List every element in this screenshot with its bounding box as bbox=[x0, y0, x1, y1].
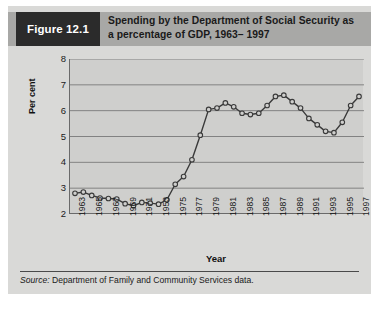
y-axis-tick-labels: 8765432 bbox=[50, 59, 66, 214]
x-axis-tick-label: 1953 bbox=[161, 197, 171, 216]
data-point bbox=[282, 93, 287, 98]
data-point bbox=[332, 130, 337, 135]
data-point bbox=[348, 103, 353, 108]
source-divider bbox=[20, 271, 359, 272]
line-chart-svg bbox=[70, 59, 364, 214]
x-axis-tick-label: 1969 bbox=[128, 197, 138, 216]
y-axis-tick-label: 6 bbox=[52, 105, 66, 116]
source-label: Source: bbox=[20, 275, 50, 285]
data-point bbox=[181, 174, 186, 179]
y-axis-tick-label: 4 bbox=[52, 156, 66, 167]
data-point bbox=[273, 94, 278, 99]
data-point bbox=[357, 94, 362, 99]
x-axis-tick-label: 1979 bbox=[211, 197, 221, 216]
y-axis-tick-label: 8 bbox=[52, 53, 66, 64]
data-point bbox=[206, 107, 211, 112]
y-axis-tick-label: 2 bbox=[52, 208, 66, 219]
y-axis-tick-label: 3 bbox=[52, 182, 66, 193]
x-axis-tick-label: 1981 bbox=[228, 197, 238, 216]
x-axis-tick-label: 1989 bbox=[295, 197, 305, 216]
x-axis-tick-label: 1971 bbox=[144, 197, 154, 216]
data-point bbox=[298, 106, 303, 111]
x-axis-title: Year bbox=[69, 253, 363, 264]
plot-area bbox=[69, 59, 363, 214]
gridlines bbox=[70, 59, 364, 188]
data-point bbox=[265, 103, 270, 108]
data-point bbox=[290, 99, 295, 104]
x-axis-tick-label: 1991 bbox=[311, 197, 321, 216]
data-point bbox=[323, 129, 328, 134]
data-point-markers bbox=[73, 93, 362, 208]
x-axis-tick-label: 1963 bbox=[77, 197, 87, 216]
data-point bbox=[123, 201, 128, 206]
data-point bbox=[248, 112, 253, 117]
x-axis-tick-label: 1977 bbox=[194, 197, 204, 216]
source-note: Source: Department of Family and Communi… bbox=[20, 275, 254, 285]
x-axis-tick-label: 1995 bbox=[345, 197, 355, 216]
y-axis-tick-label: 7 bbox=[52, 79, 66, 90]
data-point bbox=[315, 123, 320, 128]
figure-box: Figure 12.1 Spending by the Department o… bbox=[8, 6, 371, 294]
figure-number-tag: Figure 12.1 bbox=[16, 12, 100, 46]
data-point bbox=[231, 104, 236, 109]
x-axis-tick-label: 1983 bbox=[245, 197, 255, 216]
data-point bbox=[173, 182, 178, 187]
data-point bbox=[73, 191, 78, 196]
data-point bbox=[190, 157, 195, 162]
source-text: Department of Family and Community Servi… bbox=[52, 275, 254, 285]
x-axis-tick-label: 1997 bbox=[361, 197, 371, 216]
x-axis-tick-label: 1975 bbox=[178, 197, 188, 216]
data-point bbox=[198, 133, 203, 138]
data-point bbox=[223, 101, 228, 106]
data-line bbox=[75, 95, 359, 206]
figure-title: Spending by the Department of Social Sec… bbox=[108, 14, 358, 41]
data-point bbox=[240, 111, 245, 116]
figure-title-band: Figure 12.1 Spending by the Department o… bbox=[8, 12, 371, 46]
y-axis-tick-label: 5 bbox=[52, 131, 66, 142]
data-point bbox=[340, 120, 345, 125]
data-point bbox=[81, 190, 86, 195]
figure-title-line-2: a percentage of GDP, 1963– 1997 bbox=[108, 28, 358, 42]
x-axis-tick-labels: 1963196519671969197119531975197719791981… bbox=[69, 216, 363, 250]
data-point bbox=[256, 111, 261, 116]
y-axis-title: Per cent bbox=[27, 78, 37, 114]
x-axis-tick-label: 1965 bbox=[94, 197, 104, 216]
data-point bbox=[307, 116, 312, 121]
x-axis-tick-label: 1967 bbox=[111, 197, 121, 216]
figure-title-line-1: Spending by the Department of Social Sec… bbox=[108, 14, 358, 28]
data-point bbox=[215, 106, 220, 111]
x-axis-tick-label: 1993 bbox=[328, 197, 338, 216]
x-axis-tick-label: 1987 bbox=[278, 197, 288, 216]
x-axis-tick-label: 1985 bbox=[261, 197, 271, 216]
